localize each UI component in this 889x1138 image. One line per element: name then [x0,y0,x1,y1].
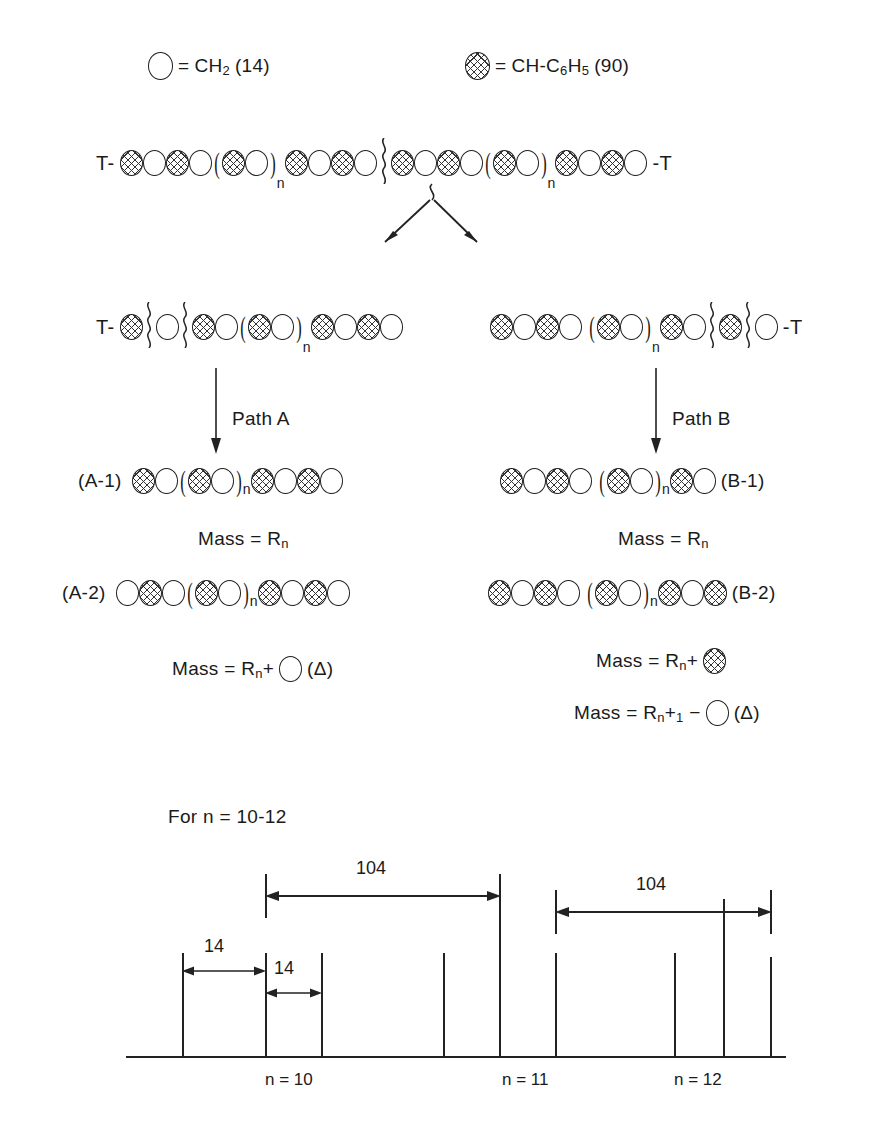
hatched-circle-icon [192,314,215,340]
hatched-circle-icon [120,314,143,340]
repeat-open-paren: ( [180,468,186,494]
spectrum-group-label-n11: n = 11 [502,1070,548,1090]
hatched-circle-icon [331,150,354,176]
hatched-circle-icon [195,580,218,606]
product-b1-label: (B-1) [721,470,765,492]
legend-equals-ch2: = [178,55,189,77]
hatched-circle-icon [601,150,624,176]
open-circle-icon [327,580,350,606]
dimension-arrow-14-a [182,964,266,982]
open-circle-icon [116,580,139,606]
hatched-circle-icon [139,580,162,606]
hatched-circle-icon [437,150,460,176]
hatched-circle-icon [258,580,281,606]
open-circle-icon [618,580,641,606]
hatched-circle-icon [546,468,569,494]
hatched-circle-icon [357,314,380,340]
spectrum-peak [555,953,557,1057]
terminus-right: -T [783,316,803,339]
cleavage-squiggle-icon [143,302,156,352]
mass-b2-first-text: Mass = Rn+ [596,650,698,673]
mass-b2-second: Mass = Rn+1 − (Δ) [574,700,760,726]
legend-mass-styrene: (90) [594,55,629,77]
dimension-label-104-a: 104 [356,858,386,879]
open-circle-icon [274,468,297,494]
product-a1-row: (A-1) ( ) n [78,468,343,494]
open-circle-icon [559,314,582,340]
hatched-circle-icon [166,150,189,176]
open-circle-icon [578,150,601,176]
hatched-circle-icon [248,314,271,340]
spectrum-peak [499,899,501,1057]
repeat-close-paren: ) [236,468,242,494]
hatched-circle-icon [670,468,693,494]
hatched-circle-icon [555,150,578,176]
product-a1-label: (A-1) [78,470,122,492]
hatched-circle-icon [285,150,308,176]
spectrum-peak [443,953,445,1057]
open-circle-icon [281,580,304,606]
dimension-label-104-b: 104 [636,874,666,895]
repeat-subscript: n [277,175,285,191]
hatched-circle-icon [595,580,618,606]
hatched-circle-icon [536,314,559,340]
cleavage-squiggle-icon [706,302,719,352]
repeat-subscript: n [250,593,258,609]
hatched-circle-icon [597,314,620,340]
mass-b1: Mass = Rn [618,528,709,551]
left-fragment-chain: T- ( ) n [96,302,403,352]
spectrum-group-label-n10: n = 10 [265,1070,313,1090]
product-b1-row: ( ) n (B-1) [500,468,765,494]
hatched-circle-icon [120,150,143,176]
open-circle-icon [460,150,483,176]
repeat-subscript: n [650,593,658,609]
product-a2-row: (A-2) ( ) n [62,580,350,606]
product-b2-label: (B-2) [732,582,776,604]
mass-a2-delta: (Δ) [307,658,333,680]
open-circle-icon [513,314,536,340]
open-circle-icon [681,580,704,606]
dimension-arrow-104-b [555,904,772,924]
open-circle-icon [245,150,268,176]
repeat-close-paren: ) [296,314,302,340]
repeat-subscript: n [548,175,556,191]
path-b-label: Path B [672,408,731,430]
dimension-label-14-a: 14 [204,936,224,957]
repeat-open-paren: ( [187,580,193,606]
repeat-open-paren: ( [214,150,220,176]
dimension-label-14-b: 14 [274,958,294,979]
terminus-left: T- [96,152,115,175]
open-circle-icon [218,580,241,606]
open-circle-icon [211,468,234,494]
open-circle-icon [155,468,178,494]
repeat-close-paren: ) [643,580,649,606]
cleavage-arrows [340,182,520,258]
cleavage-squiggle-icon [742,302,755,352]
spectrum-peak [770,957,772,1057]
hatched-circle-icon [391,150,414,176]
hatched-circle-icon [251,468,274,494]
spectrum-caption: For n = 10-12 [168,806,287,828]
open-circle-icon [215,314,238,340]
repeat-close-paren: ) [655,468,661,494]
spectrum-group-label-n12: n = 12 [674,1070,722,1090]
mass-a2: Mass = Rn+ (Δ) [172,656,333,682]
repeat-subscript: n [662,481,670,497]
hatched-circle-icon [660,314,683,340]
open-circle-icon [557,580,580,606]
open-circle-icon [511,580,534,606]
mass-b2-second-text: Mass = Rn+1 − [574,702,701,725]
terminus-left: T- [96,316,115,339]
open-circle-icon [354,150,377,176]
open-circle-icon [630,468,653,494]
open-circle-icon [683,314,706,340]
hatched-circle-icon [304,580,327,606]
terminus-right: -T [652,152,672,175]
spectrum-baseline [126,1056,786,1058]
hatched-circle-icon [607,468,630,494]
hatched-circle-icon [132,468,155,494]
open-circle-icon [320,468,343,494]
hatched-circle-icon [493,150,516,176]
legend-item-ch2: = CH2 (14) [148,52,270,80]
legend-formula-ch2: CH2 [194,55,230,78]
